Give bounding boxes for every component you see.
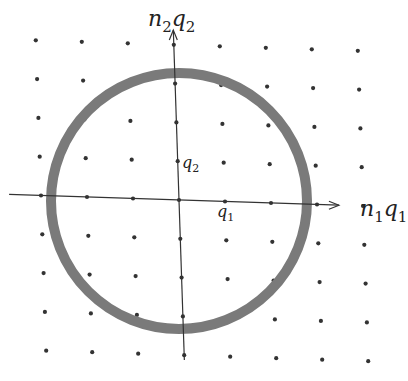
lattice-point [218, 44, 222, 48]
lattice-point [126, 41, 130, 45]
lattice-point [90, 350, 94, 354]
lattice-point [364, 282, 368, 286]
lattice-point [89, 311, 93, 315]
lattice-point [86, 234, 90, 238]
lattice-point [320, 358, 324, 362]
lattice-point [314, 164, 318, 168]
lattice-point [360, 165, 364, 169]
lattice-point [273, 317, 277, 321]
lattice-point [84, 156, 88, 160]
lattice-point [224, 238, 228, 242]
lattice-point [222, 161, 226, 165]
lattice-point [362, 243, 366, 247]
lattice-diagram: n2q2 n1q1 q2 q1 [0, 0, 408, 381]
lattice-point [130, 158, 134, 162]
lattice-point [134, 274, 138, 278]
lattice-point [365, 320, 369, 324]
lattice-point [88, 273, 92, 277]
lattice-point [319, 319, 323, 323]
lattice-point [265, 85, 269, 89]
lattice-point [40, 232, 44, 236]
lattice-point [312, 125, 316, 129]
lattice-point [310, 47, 314, 51]
lattice-point [35, 77, 39, 81]
lattice-point [356, 49, 360, 53]
lattice-point [44, 349, 48, 353]
x-axis-label: n1q1 [360, 196, 407, 226]
lattice-point [264, 46, 268, 50]
lattice-point [268, 162, 272, 166]
lattice-point [36, 116, 40, 120]
lattice-point [274, 356, 278, 360]
lattice-point [270, 240, 274, 244]
lattice-point [311, 86, 315, 90]
lattice-point [226, 277, 230, 281]
lattice-point [136, 352, 140, 356]
lattice-point [81, 79, 85, 83]
lattice-point [316, 241, 320, 245]
lattice-point [266, 123, 270, 127]
lattice-point [38, 155, 42, 159]
lattice-point [357, 88, 361, 92]
lattice-point [358, 126, 362, 130]
x-axis [9, 194, 339, 209]
lattice-point [228, 355, 232, 359]
lattice-point [132, 235, 136, 239]
y-axis-label: n2q2 [148, 6, 195, 36]
q1-label: q1 [217, 202, 234, 224]
lattice-point [80, 40, 84, 44]
lattice-point [220, 122, 224, 126]
lattice-point [128, 119, 132, 123]
y-axis [169, 30, 184, 360]
lattice-point [34, 38, 38, 42]
lattice-point [43, 310, 47, 314]
lattice-point [318, 280, 322, 284]
lattice-point [42, 271, 46, 275]
q2-label: q2 [182, 153, 199, 175]
lattice-point [366, 359, 370, 363]
